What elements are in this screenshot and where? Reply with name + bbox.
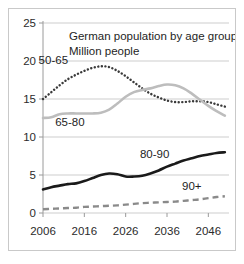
chart-container: 051015202520062016202620362046German pop… <box>8 8 236 251</box>
y-tick-label-10: 10 <box>23 131 36 143</box>
label-90+: 90+ <box>182 180 202 192</box>
y-tick-label-25: 25 <box>23 17 36 29</box>
x-tick-label-2046: 2046 <box>196 225 222 237</box>
x-tick-label-2036: 2036 <box>154 225 180 237</box>
y-tick-label-0: 0 <box>30 207 36 219</box>
population-line-chart: 051015202520062016202620362046German pop… <box>9 9 235 250</box>
x-tick-label-2026: 2026 <box>113 225 139 237</box>
label-80-90: 80-90 <box>140 148 169 160</box>
chart-subtitle: Million people <box>69 45 139 57</box>
plot-area: 051015202520062016202620362046German pop… <box>9 9 235 250</box>
x-tick-label-2006: 2006 <box>30 225 56 237</box>
label-65-80: 65-80 <box>55 116 84 128</box>
label-50-65: 50-65 <box>39 54 68 66</box>
y-tick-label-5: 5 <box>30 169 36 181</box>
x-tick-label-2016: 2016 <box>72 225 98 237</box>
y-tick-label-20: 20 <box>23 55 36 67</box>
series-line-50-65 <box>43 66 225 106</box>
chart-title: German population by age groups <box>69 30 235 42</box>
series-line-90-plus <box>43 196 225 209</box>
y-tick-label-15: 15 <box>23 93 36 105</box>
